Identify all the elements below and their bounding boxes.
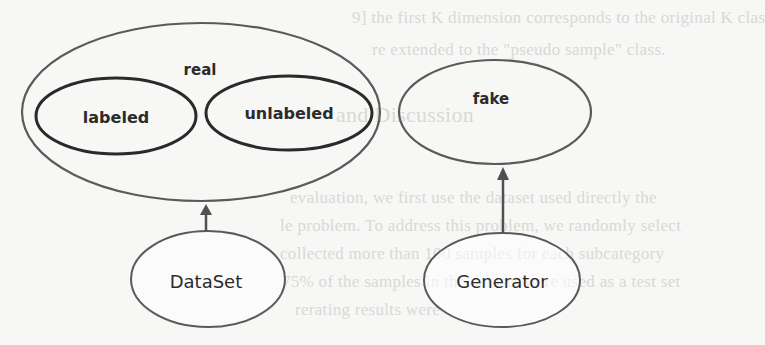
- dataset-label: DataSet: [170, 271, 243, 292]
- unlabeled-label: unlabeled: [244, 104, 333, 123]
- labeled-node: labeled: [36, 78, 196, 154]
- generator-label: Generator: [456, 271, 548, 292]
- generator-node: Generator: [424, 233, 580, 327]
- arrowhead-icon: [200, 204, 212, 215]
- real-label: real: [184, 61, 217, 79]
- fake-label: fake: [473, 90, 509, 108]
- fake-node: fake: [399, 60, 591, 164]
- arrow-dataset-to-real: [200, 204, 212, 231]
- arrow-generator-to-fake: [497, 167, 509, 233]
- labeled-label: labeled: [83, 108, 149, 127]
- fake-ellipse: [399, 60, 591, 164]
- dataset-node: DataSet: [131, 231, 285, 327]
- unlabeled-node: unlabeled: [206, 76, 372, 150]
- arrowhead-icon: [497, 167, 509, 180]
